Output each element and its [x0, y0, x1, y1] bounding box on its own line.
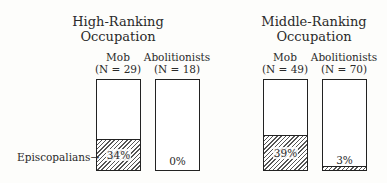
bar-value: 39%	[264, 147, 307, 159]
arrow-icon: →	[90, 151, 99, 163]
value-label: 3%	[335, 154, 354, 166]
title-line: High-Ranking	[53, 14, 183, 29]
bar-name: Abolitionists	[309, 51, 379, 63]
value-label: 39%	[273, 147, 298, 159]
bar-value: 34%	[97, 149, 140, 161]
bar-name: Abolitionists	[142, 51, 212, 63]
bar-fill	[323, 166, 366, 170]
value-label: 34%	[106, 149, 131, 161]
value-label: 0%	[168, 155, 187, 167]
bar-label-middle-abol: Abolitionists (N = 70)	[309, 51, 379, 75]
title-line: Middle-Ranking	[249, 14, 379, 29]
group-title-high: High-Ranking Occupation	[53, 14, 183, 44]
annotation-text: Episcopalians	[17, 151, 90, 163]
bar-middle-abol: 3%	[322, 79, 367, 171]
bar-high-abol: 0%	[155, 79, 200, 171]
bar-label-high-abol: Abolitionists (N = 18)	[142, 51, 212, 75]
bar-n: (N = 70)	[309, 63, 379, 75]
bar-value: 0%	[156, 155, 199, 167]
title-line: Occupation	[53, 29, 183, 44]
bar-middle-mob: 39%	[263, 79, 308, 171]
group-title-middle: Middle-Ranking Occupation	[249, 14, 379, 44]
bar-value: 3%	[323, 154, 366, 166]
bar-n: (N = 18)	[142, 63, 212, 75]
episcopalians-annotation: Episcopalians→	[17, 151, 99, 163]
bar-high-mob: 34%	[96, 79, 141, 171]
title-line: Occupation	[249, 29, 379, 44]
